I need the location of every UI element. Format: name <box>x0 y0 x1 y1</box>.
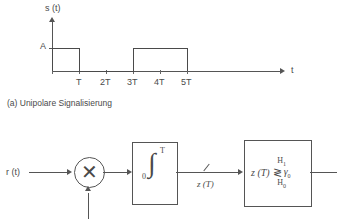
figure-canvas: s (t) t A T 2T 3T 4T 5T (a) Unipolare S <box>0 0 337 219</box>
pulse-1-falling-edge <box>79 48 80 71</box>
figure-caption-a: (a) Unipolare Signalisierung <box>7 98 112 108</box>
y-axis-arrowhead-icon <box>49 17 55 22</box>
input-line <box>29 172 68 173</box>
integral-lower-limit: 0 <box>142 173 146 181</box>
integral-icon: ∫ <box>148 150 155 177</box>
pulse-2-rising-edge <box>133 48 134 71</box>
integral-upper-limit: T <box>160 147 165 155</box>
amplitude-label: A <box>40 42 46 51</box>
sampler-switch-icon <box>203 164 209 172</box>
multiplier-to-integrator-line <box>103 172 128 173</box>
x-axis-label: t <box>291 66 294 75</box>
x-tick-4 <box>160 70 161 74</box>
pulse-1-rising-edge <box>52 48 53 71</box>
pulse-1-top <box>52 48 80 49</box>
sampler-output-label: z (T) <box>197 180 214 189</box>
input-signal-label: r (t) <box>6 168 20 177</box>
y-axis-label: s (t) <box>45 4 61 13</box>
input-arrowhead-icon <box>67 169 72 175</box>
carrier-arrowhead-icon <box>85 186 91 191</box>
decision-variable-label: z (T) <box>251 167 270 178</box>
x-tick-label-5: 5T <box>181 78 192 87</box>
decision-output-line <box>310 172 337 173</box>
zero-level-segment <box>79 71 134 72</box>
x-axis-arrowhead-icon <box>280 68 285 74</box>
carrier-input-line <box>88 193 89 219</box>
compare-symbol-icon: ≷ <box>273 167 282 178</box>
hypothesis-test-stack: H1 ≷ γ0 H0 <box>273 157 291 188</box>
decision-input-arrowhead-icon <box>238 169 243 175</box>
hypothesis-h0-label: H0 <box>277 179 286 189</box>
pulse-2-falling-edge <box>187 48 188 71</box>
integrator-to-decision-line <box>176 172 239 173</box>
block-diagram-panel: r (t) ✕ ∫ T 0 z (T) z (T) H1 ≷ <box>0 110 337 219</box>
multiply-icon: ✕ <box>81 162 98 182</box>
x-tick-label-4: 4T <box>154 78 165 87</box>
pulse-2-top <box>133 48 188 49</box>
x-tick-label-1: T <box>76 78 82 87</box>
x-tick-label-2: 2T <box>100 78 111 87</box>
decision-rule: z (T) H1 ≷ γ0 H0 <box>251 157 291 188</box>
waveform-panel: s (t) t A T 2T 3T 4T 5T (a) Unipolare S <box>0 0 337 110</box>
x-tick-label-3: 3T <box>127 78 138 87</box>
threshold-label: γ0 <box>284 167 291 179</box>
